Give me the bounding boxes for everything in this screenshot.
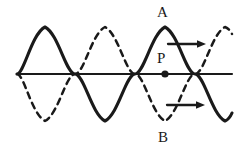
crest-label-a: A [157, 5, 168, 20]
point-p-marker-dot [161, 70, 168, 77]
wave-figure: A P B [0, 0, 245, 160]
trough-label-b: B [158, 130, 168, 145]
upper-propagation-arrow [168, 40, 206, 47]
lower-propagation-arrow [167, 101, 205, 108]
wave-diagram-svg [0, 0, 245, 160]
point-label-p: P [157, 51, 165, 66]
